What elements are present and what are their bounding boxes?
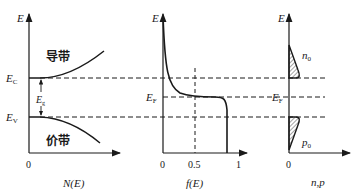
eg-label: Eg (35, 94, 45, 106)
x-axis-label: f(E) (186, 177, 203, 190)
panel-fermi-distribution: E 0 0.5 1 f(E) EF (145, 12, 247, 190)
y-axis-label: E (151, 12, 159, 24)
panel-carrier-concentration: E 0 n,p n0 p0 EF (271, 12, 350, 188)
electron-distribution (289, 45, 299, 78)
origin-label: 0 (286, 159, 291, 170)
tick-0-5: 0.5 (188, 159, 201, 170)
hole-distribution (289, 117, 299, 150)
x-axis-label: N(E) (62, 177, 85, 190)
ev-label: EV (5, 111, 18, 125)
tick-0: 0 (160, 159, 165, 170)
conduction-band-label: 导带 (46, 49, 70, 64)
origin-label: 0 (26, 159, 31, 170)
panel-density-of-states: E 0 N(E) 导带 价带 EC EV Eg (5, 12, 120, 190)
ec-label: EC (5, 72, 18, 86)
band-diagram: E 0 N(E) 导带 价带 EC EV Eg E 0 0.5 1 f(E) E… (0, 0, 363, 194)
y-axis-label: E (16, 12, 24, 24)
y-axis-label: E (277, 12, 285, 24)
ef-label: EF (145, 91, 157, 105)
valence-band-label: 价带 (46, 133, 70, 148)
x-axis-label: n,p (311, 176, 325, 188)
ef-label: EF (271, 91, 283, 105)
electron-label: n0 (302, 49, 312, 63)
tick-1: 1 (236, 159, 241, 170)
hole-label: p0 (301, 136, 312, 150)
